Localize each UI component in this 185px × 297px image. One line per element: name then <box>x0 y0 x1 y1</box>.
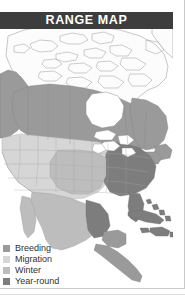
legend-label-winter: Winter <box>15 265 41 276</box>
legend-item-winter: Winter <box>3 265 59 276</box>
legend-item-breeding: Breeding <box>3 243 59 254</box>
legend-item-year-round: Year-round <box>3 276 59 287</box>
legend-label-year-round: Year-round <box>15 276 59 287</box>
legend-swatch-migration-icon <box>3 256 10 263</box>
legend-label-migration: Migration <box>15 254 52 265</box>
frame-bottom-rule <box>0 288 185 289</box>
legend-swatch-breeding-icon <box>3 245 10 252</box>
plains-winter-region <box>50 150 106 194</box>
frame-bottom-rule-secondary <box>0 294 185 295</box>
range-map-title-banner: RANGE MAP <box>0 12 173 29</box>
legend-swatch-year-round-icon <box>3 278 10 285</box>
frame-right-rule <box>184 0 185 288</box>
legend-label-breeding: Breeding <box>15 243 51 254</box>
legend-item-migration: Migration <box>3 254 59 265</box>
legend-swatch-winter-icon <box>3 267 10 274</box>
page-title: RANGE MAP <box>46 14 128 27</box>
map-legend: Breeding Migration Winter Year-round <box>3 243 59 287</box>
range-map-widget: RANGE MAP Breeding Migration Winter Year… <box>0 0 185 297</box>
